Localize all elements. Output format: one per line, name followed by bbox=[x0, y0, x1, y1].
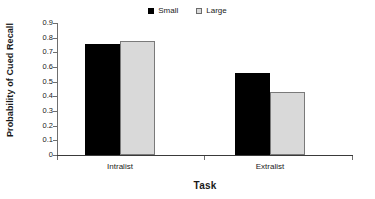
bar-extralist-small bbox=[235, 73, 270, 155]
category-label-extralist: Extralist bbox=[256, 163, 284, 171]
bar-series-container bbox=[0, 0, 375, 199]
bar-intralist-large bbox=[120, 41, 155, 155]
x-axis-title: Task bbox=[57, 180, 353, 191]
bar-extralist-large bbox=[270, 92, 305, 155]
category-label-intralist: Intralist bbox=[107, 163, 133, 171]
bar-chart: Small Large Probability of Cued Recall 0… bbox=[0, 0, 375, 199]
bar-intralist-small bbox=[85, 44, 120, 155]
